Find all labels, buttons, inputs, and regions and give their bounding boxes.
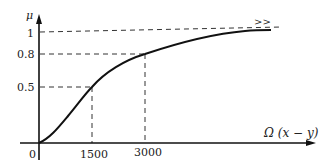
y-tick-0.8: 0.8 [17,48,35,61]
asymptote-annotation: >> [254,16,271,27]
x-tick-1500: 1500 [80,148,108,161]
y-axis-label: μ [26,9,33,22]
y-axis-arrow-icon [36,14,42,24]
x-tick-3000: 3000 [134,146,162,159]
x-axis-label: Ω (x − y) [263,126,319,140]
y-tick-0.5: 0.5 [17,81,35,94]
membership-function-chart: μ 1 0.8 0.5 0 1500 3000 Ω (x − y) >> [0,0,335,164]
y-tick-1: 1 [27,27,34,40]
membership-curve [39,30,271,143]
x-axis-arrow-icon [306,140,316,146]
origin-label: 0 [29,148,36,161]
reference-lines [40,27,282,143]
